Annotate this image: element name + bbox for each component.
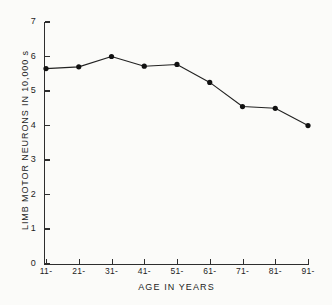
x-axis-title: AGE IN YEARS bbox=[44, 282, 309, 292]
data-series-layer bbox=[0, 0, 332, 305]
data-point-marker bbox=[109, 54, 114, 59]
y-axis-title: LIMB MOTOR NEURONS IN 10,000 s bbox=[20, 35, 30, 245]
data-point-marker bbox=[43, 66, 48, 71]
data-point-marker bbox=[207, 80, 212, 85]
data-point-marker bbox=[142, 64, 147, 69]
data-point-marker bbox=[174, 62, 179, 67]
plot-area: 01234567 11-21-31-41-51-61-71-81-91- AGE… bbox=[0, 0, 332, 305]
data-point-marker bbox=[240, 104, 245, 109]
data-point-marker bbox=[273, 106, 278, 111]
data-point-marker bbox=[305, 123, 310, 128]
data-point-marker bbox=[76, 64, 81, 69]
chart-figure: 01234567 11-21-31-41-51-61-71-81-91- AGE… bbox=[0, 0, 332, 305]
